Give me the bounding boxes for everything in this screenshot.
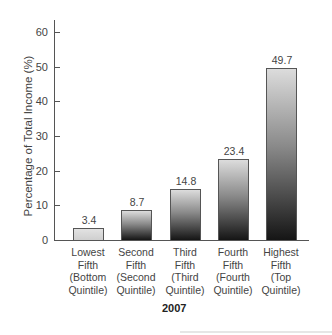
bar (266, 68, 297, 241)
y-tick (54, 32, 60, 33)
y-tick-label: 0 (20, 234, 48, 246)
y-tick-label: 50 (20, 61, 48, 73)
divider (180, 331, 332, 333)
y-tick (54, 136, 60, 137)
income-distribution-bar-chart: Percentage of Total Income (%) 010203040… (0, 0, 332, 335)
bar (73, 228, 104, 241)
category-label-line: Fifth (252, 259, 310, 272)
category-label: HighestFifth(TopQuintile) (252, 246, 310, 296)
y-tick-label: 10 (20, 199, 48, 211)
x-axis-title: 2007 (162, 302, 186, 314)
y-tick (54, 101, 60, 102)
y-tick-label: 60 (20, 26, 48, 38)
bar (121, 210, 152, 241)
bar-value-label: 49.7 (262, 54, 302, 66)
category-label-line: Quintile) (252, 284, 310, 297)
bar-value-label: 3.4 (69, 214, 109, 226)
bar (170, 189, 201, 241)
y-tick-label: 40 (20, 95, 48, 107)
y-axis-line (54, 20, 55, 240)
category-label-line: (Top (252, 271, 310, 284)
bar-value-label: 8.7 (117, 196, 157, 208)
y-tick (54, 205, 60, 206)
bar-value-label: 23.4 (214, 145, 254, 157)
y-tick-label: 20 (20, 165, 48, 177)
y-tick-label: 30 (20, 130, 48, 142)
bar-value-label: 14.8 (166, 175, 206, 187)
y-tick (54, 171, 60, 172)
bar (218, 159, 249, 241)
category-label-line: Highest (252, 246, 310, 259)
y-tick (54, 67, 60, 68)
